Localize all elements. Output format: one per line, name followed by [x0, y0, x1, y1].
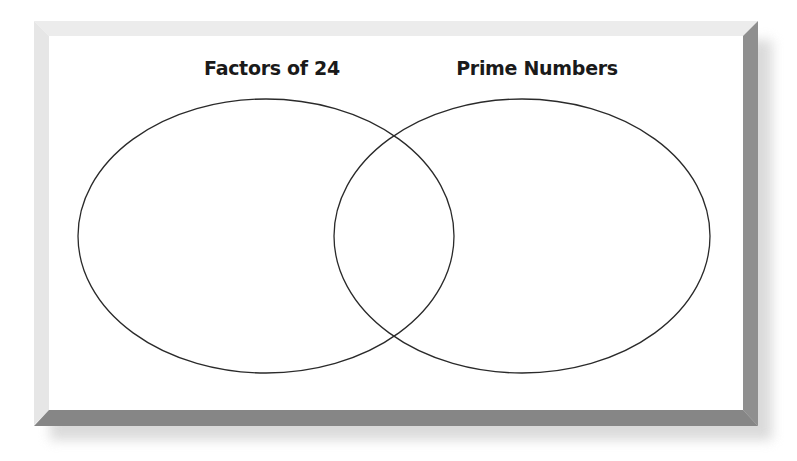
set-ellipse-factors-of-24	[78, 99, 454, 373]
venn-diagram-card: Factors of 24 Prime Numbers	[0, 0, 797, 461]
set-ellipse-prime-numbers	[334, 99, 710, 373]
set-label-prime-numbers: Prime Numbers	[456, 57, 618, 79]
venn-circles	[0, 0, 797, 461]
set-label-factors-of-24: Factors of 24	[204, 57, 340, 79]
